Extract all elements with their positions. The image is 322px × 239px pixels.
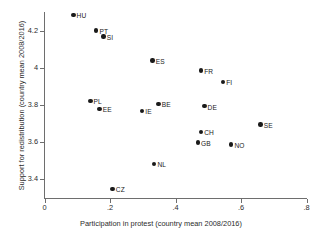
data-point-label-ee: EE <box>103 106 112 113</box>
data-point-fi <box>221 80 225 84</box>
x-axis-title: Participation in protest (country mean 2… <box>0 219 322 228</box>
data-point-se <box>258 122 262 126</box>
data-point-ee <box>97 107 101 111</box>
y-tick-label: 3.6 <box>12 137 38 146</box>
y-tick-mark <box>40 105 44 106</box>
data-point-label-se: SE <box>264 122 273 129</box>
y-tick-label: 3.8 <box>12 100 38 109</box>
data-point-si <box>101 34 105 38</box>
y-tick-mark <box>40 31 44 32</box>
data-point-gb <box>196 140 200 144</box>
data-point-label-ie: IE <box>145 108 151 115</box>
data-point-label-es: ES <box>156 58 165 65</box>
y-tick-label: 3.4 <box>12 174 38 183</box>
data-point-label-no: NO <box>234 142 244 149</box>
data-point-label-hu: HU <box>77 12 87 19</box>
x-tick-label: .6 <box>231 203 251 212</box>
x-tick-label: .8 <box>297 203 317 212</box>
y-axis-line <box>44 12 45 199</box>
x-tick-label: .2 <box>100 203 120 212</box>
data-point-label-si: SI <box>107 34 113 41</box>
data-point-label-de: DE <box>208 104 217 111</box>
data-point-label-fr: FR <box>204 68 213 75</box>
data-point-label-be: BE <box>162 101 171 108</box>
data-point-de <box>202 104 206 108</box>
data-point-label-gb: GB <box>201 140 211 147</box>
y-tick-mark <box>40 142 44 143</box>
x-tick-label: .4 <box>166 203 186 212</box>
data-point-nl <box>152 162 156 166</box>
y-tick-mark <box>40 179 44 180</box>
y-tick-label: 4.2 <box>12 26 38 35</box>
data-point-label-ch: CH <box>204 129 214 136</box>
data-point-cz <box>110 187 114 191</box>
data-point-ie <box>140 109 144 113</box>
data-point-ch <box>199 130 203 134</box>
data-point-be <box>156 102 160 106</box>
y-tick-mark <box>40 68 44 69</box>
data-point-pl <box>88 99 92 103</box>
x-tick-label: 0 <box>35 203 55 212</box>
data-point-label-pl: PL <box>94 98 102 105</box>
data-point-fr <box>199 68 203 72</box>
data-point-no <box>229 142 233 146</box>
data-point-label-nl: NL <box>157 161 166 168</box>
data-point-pt <box>94 28 98 32</box>
data-point-label-cz: CZ <box>116 186 125 193</box>
data-point-label-fi: FI <box>226 79 232 86</box>
y-tick-label: 4 <box>12 63 38 72</box>
data-point-hu <box>71 13 75 17</box>
scatter-plot-figure: Support for redistribution (country mean… <box>0 0 322 239</box>
data-point-es <box>150 58 154 62</box>
